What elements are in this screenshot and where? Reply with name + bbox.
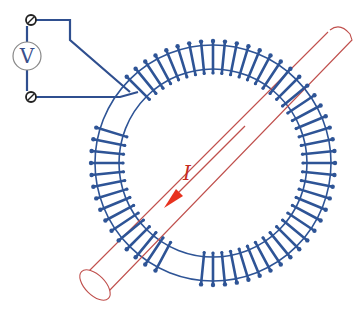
current-label: I — [182, 161, 192, 185]
voltmeter-label: V — [19, 44, 35, 68]
toroid-current-diagram: V I — [0, 0, 361, 312]
terminal-top-icon — [26, 15, 36, 25]
toroid-coil-front — [89, 39, 337, 287]
voltmeter-wires — [27, 20, 138, 97]
current-arrow-icon: I — [164, 126, 245, 208]
voltmeter-icon: V — [13, 42, 41, 70]
terminal-bottom-icon — [26, 92, 36, 102]
